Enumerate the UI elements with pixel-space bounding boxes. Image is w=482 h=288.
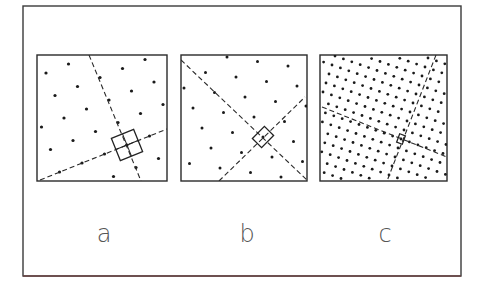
lattice-point	[431, 98, 434, 101]
lattice-point	[336, 76, 339, 79]
lattice-point	[414, 123, 417, 126]
lattice-point	[411, 132, 414, 135]
lattice-point	[368, 177, 371, 180]
lattice-point	[445, 143, 448, 146]
lattice-point	[139, 112, 142, 115]
lattice-point	[440, 101, 443, 104]
lattice-point	[392, 105, 395, 108]
lattice-point	[412, 102, 415, 105]
lattice-point	[329, 123, 332, 126]
lattice-point	[354, 162, 357, 165]
panel-b-label: b	[239, 220, 254, 248]
lattice-point	[53, 94, 56, 97]
lattice-point	[415, 63, 418, 66]
lattice-point	[385, 153, 388, 156]
lattice-point	[353, 81, 356, 84]
lattice-point	[76, 85, 79, 88]
panel-a-border	[37, 55, 167, 181]
lattice-point	[409, 81, 412, 84]
lattice-point	[443, 92, 446, 95]
lattice-point	[157, 157, 160, 160]
lattice-point	[335, 105, 338, 108]
lattice-point	[274, 100, 277, 103]
lattice-point	[371, 138, 374, 141]
lattice-point	[367, 66, 370, 69]
lattice-point	[346, 159, 349, 162]
lattice-point	[340, 147, 343, 150]
lattice-point	[382, 162, 385, 165]
lattice-point	[331, 64, 334, 67]
lattice-point	[71, 139, 74, 142]
lattice-point	[422, 125, 425, 128]
panel-c-label: c	[378, 220, 391, 248]
panel-a-label: a	[97, 220, 112, 248]
lattice-point	[431, 128, 434, 131]
lattice-point	[361, 114, 364, 117]
lattice-point	[352, 141, 355, 144]
lattice-point	[427, 57, 430, 60]
lattice-point	[62, 116, 65, 119]
lattice-point	[347, 99, 350, 102]
lattice-point	[436, 170, 439, 173]
lattice-point	[364, 105, 367, 108]
lattice-point	[428, 107, 431, 110]
lattice-point	[364, 75, 367, 78]
lattice-point	[94, 130, 97, 133]
lattice-point	[436, 140, 439, 143]
lattice-point	[437, 80, 440, 83]
lattice-point	[40, 125, 43, 128]
lattice-point	[337, 156, 340, 159]
lattice-point	[333, 85, 336, 88]
lattice-point	[399, 168, 402, 171]
lattice-point	[296, 85, 299, 88]
lattice-point	[271, 156, 274, 159]
lattice-point	[417, 114, 420, 117]
lattice-point	[322, 91, 325, 94]
lattice-point	[400, 108, 403, 111]
lattice-point	[358, 123, 361, 126]
lattice-point	[415, 93, 418, 96]
lattice-point	[222, 111, 225, 114]
lattice-point	[341, 117, 344, 120]
lattice-point	[327, 103, 330, 106]
lattice-point	[360, 144, 363, 147]
lattice-figure: a b c	[0, 0, 482, 288]
lattice-point	[210, 147, 213, 150]
lattice-point	[365, 156, 368, 159]
lattice-point	[403, 99, 406, 102]
panel-c: c	[320, 55, 447, 248]
lattice-point	[280, 176, 283, 179]
lattice-point	[439, 131, 442, 134]
panel-a: a	[37, 55, 167, 248]
lattice-point	[240, 151, 243, 154]
lattice-point	[440, 71, 443, 74]
lattice-point	[416, 173, 419, 176]
lattice-point	[408, 141, 411, 144]
lattice-point	[85, 107, 88, 110]
lattice-point	[410, 161, 413, 164]
lattice-point	[183, 87, 186, 90]
lattice-point	[301, 160, 304, 163]
lattice-point	[253, 116, 256, 119]
lattice-point	[394, 156, 397, 159]
lattice-point	[428, 137, 431, 140]
lattice-point	[341, 87, 344, 90]
lattice-point	[358, 93, 361, 96]
lattice-point	[398, 57, 401, 60]
lattice-point	[256, 60, 259, 63]
lattice-point	[350, 90, 353, 93]
lattice-point	[395, 66, 398, 69]
lattice-point	[383, 102, 386, 105]
lattice-point	[444, 173, 447, 176]
lattice-point	[244, 96, 247, 99]
lattice-point	[324, 112, 327, 115]
lattice-point	[403, 129, 406, 132]
lattice-point	[370, 57, 373, 60]
lattice-point	[344, 108, 347, 111]
lattice-point	[379, 60, 382, 63]
lattice-point	[188, 162, 191, 165]
lattice-point	[371, 168, 374, 171]
lattice-point	[404, 69, 407, 72]
lattice-point	[350, 60, 353, 63]
lattice-point	[423, 96, 426, 99]
